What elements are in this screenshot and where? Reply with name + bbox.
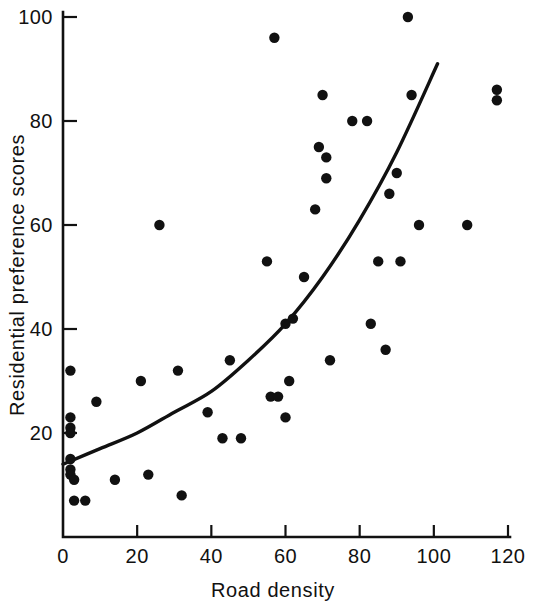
data-point: [380, 345, 390, 355]
data-point: [91, 397, 101, 407]
data-point: [176, 490, 186, 500]
data-point: [321, 152, 331, 162]
x-tick-label-60: 60: [274, 545, 297, 567]
y-tick-label-60: 60: [30, 214, 53, 236]
data-point: [462, 220, 472, 230]
data-point: [373, 256, 383, 266]
x-tick-label-80: 80: [348, 545, 371, 567]
data-point: [65, 412, 75, 422]
y-tick-label-100: 100: [18, 6, 53, 28]
data-point: [321, 173, 331, 183]
data-point: [492, 95, 502, 105]
y-tick-label-40: 40: [30, 318, 53, 340]
data-point: [173, 365, 183, 375]
data-point: [110, 475, 120, 485]
data-point: [269, 33, 279, 43]
x-tick-label-100: 100: [416, 545, 451, 567]
data-point: [217, 433, 227, 443]
data-point: [299, 272, 309, 282]
data-point: [202, 407, 212, 417]
data-point: [65, 365, 75, 375]
data-point: [284, 376, 294, 386]
data-point: [492, 85, 502, 95]
data-point: [280, 412, 290, 422]
axis-lines: [63, 12, 510, 537]
data-point: [69, 475, 79, 485]
data-point: [384, 189, 394, 199]
y-tick-label-80: 80: [30, 110, 53, 132]
y-axis-title: Residential preference scores: [6, 134, 28, 416]
data-point: [366, 319, 376, 329]
data-point: [136, 376, 146, 386]
data-point: [262, 256, 272, 266]
chart-canvas: 020406080100120 20406080100 Road density…: [0, 0, 547, 608]
scatter-plot-figure: 020406080100120 20406080100 Road density…: [0, 0, 547, 608]
data-point: [325, 355, 335, 365]
x-tick-label-120: 120: [491, 545, 526, 567]
data-point: [406, 90, 416, 100]
x-tick-label-0: 0: [57, 545, 69, 567]
data-point: [392, 168, 402, 178]
data-point: [143, 469, 153, 479]
data-point: [69, 495, 79, 505]
y-tick-label-20: 20: [30, 422, 53, 444]
data-point: [362, 116, 372, 126]
x-axis-title: Road density: [211, 579, 335, 601]
data-point: [403, 12, 413, 22]
x-axis-ticks: [137, 525, 508, 537]
data-point-markers: [65, 12, 502, 506]
data-point: [80, 495, 90, 505]
data-point: [414, 220, 424, 230]
data-point: [395, 256, 405, 266]
data-point: [154, 220, 164, 230]
axis-spine: [63, 12, 510, 537]
x-tick-label-20: 20: [126, 545, 149, 567]
data-point: [310, 204, 320, 214]
data-point: [65, 428, 75, 438]
x-axis-tick-labels: 020406080100120: [57, 545, 525, 567]
data-point: [314, 142, 324, 152]
data-point: [273, 391, 283, 401]
data-point: [317, 90, 327, 100]
x-tick-label-40: 40: [200, 545, 223, 567]
data-point: [347, 116, 357, 126]
data-point: [225, 355, 235, 365]
data-point: [236, 433, 246, 443]
